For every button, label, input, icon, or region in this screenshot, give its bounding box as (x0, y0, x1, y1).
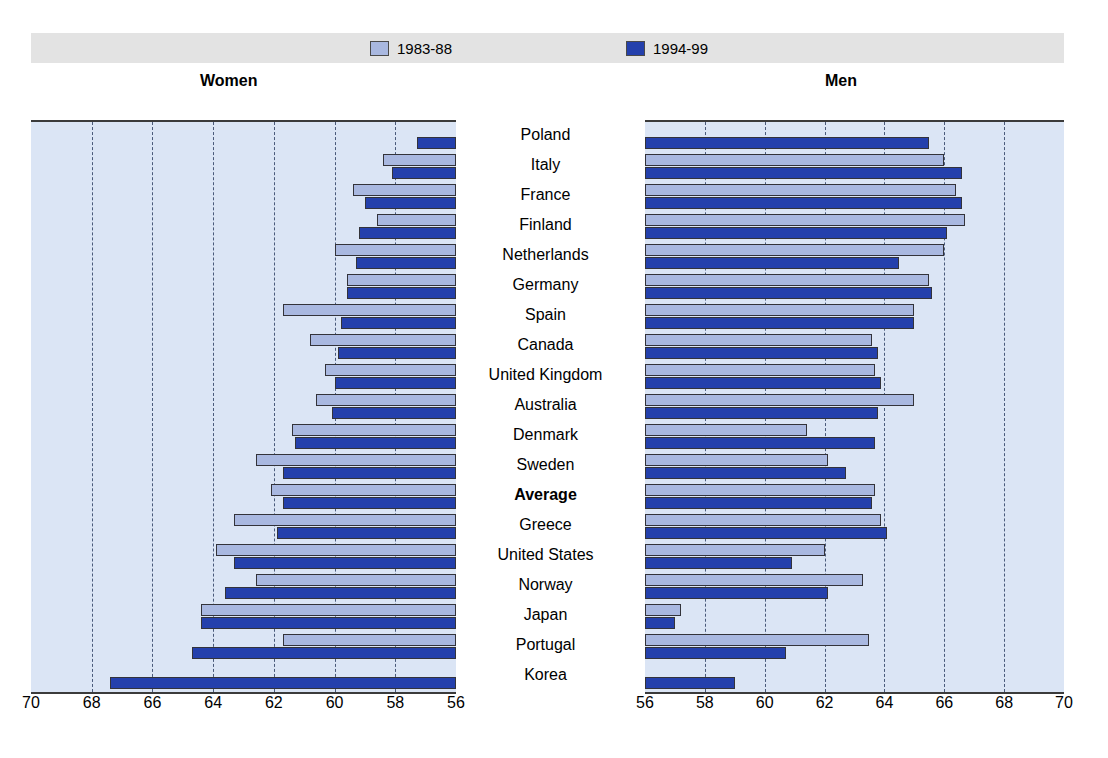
bar-united-kingdom-1983-88 (645, 364, 875, 376)
bar-germany-1983-88 (347, 274, 456, 286)
bar-finland-1983-88 (377, 214, 456, 226)
bar-germany-1994-99 (347, 287, 456, 299)
bar-korea-1994-99 (110, 677, 456, 689)
category-label-portugal: Portugal (456, 630, 635, 660)
panel-title-men: Men (825, 72, 857, 90)
bar-netherlands-1994-99 (356, 257, 456, 269)
bar-row (645, 422, 1064, 452)
axis-tick-58: 58 (696, 694, 714, 712)
bar-row (645, 332, 1064, 362)
category-label-poland: Poland (456, 120, 635, 150)
bar-rows-men (645, 122, 1064, 692)
bar-poland-1994-99 (417, 137, 456, 149)
bar-united-states-1983-88 (216, 544, 456, 556)
bar-sweden-1983-88 (256, 454, 456, 466)
bar-spain-1994-99 (645, 317, 914, 329)
bar-finland-1983-88 (645, 214, 965, 226)
category-label-denmark: Denmark (456, 420, 635, 450)
bar-portugal-1994-99 (645, 647, 786, 659)
bar-united-kingdom-1994-99 (335, 377, 456, 389)
bar-canada-1994-99 (645, 347, 878, 359)
bar-italy-1994-99 (392, 167, 456, 179)
bar-france-1983-88 (353, 184, 456, 196)
bar-italy-1983-88 (645, 154, 944, 166)
bar-spain-1983-88 (283, 304, 456, 316)
bar-greece-1983-88 (234, 514, 456, 526)
bar-canada-1983-88 (645, 334, 872, 346)
bar-row (645, 122, 1064, 152)
x-axis-women: 7068666462605856 (31, 694, 456, 722)
category-label-norway: Norway (456, 570, 635, 600)
bar-italy-1994-99 (645, 167, 962, 179)
bar-japan-1983-88 (645, 604, 681, 616)
bar-australia-1983-88 (316, 394, 456, 406)
bar-portugal-1994-99 (192, 647, 456, 659)
plot-area-men (645, 120, 1064, 694)
bar-row (31, 332, 456, 362)
bar-norway-1983-88 (645, 574, 863, 586)
bar-row (31, 272, 456, 302)
legend-swatch-1994-99 (626, 41, 645, 56)
axis-tick-60: 60 (326, 694, 344, 712)
axis-tick-62: 62 (265, 694, 283, 712)
bar-row (645, 152, 1064, 182)
bar-sweden-1994-99 (645, 467, 846, 479)
category-label-greece: Greece (456, 510, 635, 540)
bar-united-kingdom-1994-99 (645, 377, 881, 389)
category-label-finland: Finland (456, 210, 635, 240)
bar-sweden-1994-99 (283, 467, 456, 479)
bar-row (31, 182, 456, 212)
legend-label-1994-99: 1994-99 (653, 40, 708, 57)
bar-greece-1994-99 (277, 527, 456, 539)
bar-portugal-1983-88 (645, 634, 869, 646)
bar-row (31, 362, 456, 392)
bar-row (31, 212, 456, 242)
category-label-canada: Canada (456, 330, 635, 360)
bar-finland-1994-99 (645, 227, 947, 239)
axis-tick-64: 64 (204, 694, 222, 712)
bar-norway-1994-99 (645, 587, 828, 599)
bar-row (645, 572, 1064, 602)
bar-germany-1994-99 (645, 287, 932, 299)
bar-row (645, 662, 1064, 692)
bar-united-states-1994-99 (234, 557, 456, 569)
bar-canada-1983-88 (310, 334, 456, 346)
category-label-united-kingdom: United Kingdom (456, 360, 635, 390)
bar-poland-1994-99 (645, 137, 929, 149)
bar-united-kingdom-1983-88 (325, 364, 456, 376)
bar-row (645, 482, 1064, 512)
bar-row (645, 512, 1064, 542)
bar-netherlands-1983-88 (645, 244, 944, 256)
axis-tick-66: 66 (935, 694, 953, 712)
bar-australia-1994-99 (332, 407, 456, 419)
legend-label-1983-88: 1983-88 (397, 40, 452, 57)
plot-area-women (31, 120, 456, 694)
bar-united-states-1994-99 (645, 557, 792, 569)
bar-average-1983-88 (271, 484, 456, 496)
axis-tick-68: 68 (83, 694, 101, 712)
category-label-germany: Germany (456, 270, 635, 300)
bar-row (645, 602, 1064, 632)
axis-tick-64: 64 (876, 694, 894, 712)
bar-row (645, 272, 1064, 302)
axis-tick-62: 62 (816, 694, 834, 712)
bar-spain-1983-88 (645, 304, 914, 316)
bar-row (31, 122, 456, 152)
bar-finland-1994-99 (359, 227, 456, 239)
bar-netherlands-1994-99 (645, 257, 899, 269)
bar-row (31, 632, 456, 662)
axis-tick-58: 58 (386, 694, 404, 712)
bar-row (31, 662, 456, 692)
axis-tick-70: 70 (1055, 694, 1073, 712)
bar-row (645, 452, 1064, 482)
bar-row (31, 452, 456, 482)
bar-row (645, 242, 1064, 272)
bar-row (31, 542, 456, 572)
chart-page: 1983-88 1994-99 Women Men PolandItalyFra… (0, 0, 1108, 758)
category-label-italy: Italy (456, 150, 635, 180)
bar-australia-1994-99 (645, 407, 878, 419)
bar-france-1994-99 (645, 197, 962, 209)
category-label-united-states: United States (456, 540, 635, 570)
bar-italy-1983-88 (383, 154, 456, 166)
legend-item-1994-99: 1994-99 (626, 33, 708, 63)
